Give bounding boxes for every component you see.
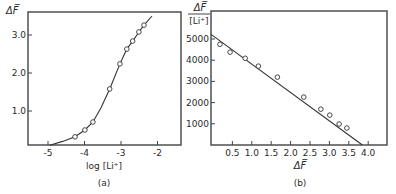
panel-b-y-axis-label-numerator: ΔF̅ — [193, 1, 209, 13]
data-point — [137, 30, 142, 35]
panel-a-y-axis-label: ΔF̅ — [5, 4, 21, 16]
y-tick-label: 2000 — [186, 98, 209, 108]
data-point — [142, 23, 147, 28]
x-tick-label: 3.5 — [342, 148, 356, 158]
data-point — [118, 62, 123, 67]
data-point — [256, 64, 261, 69]
panel-a-frame — [28, 12, 181, 145]
y-tick-label: 1.0 — [12, 106, 27, 116]
panel-b-ticks: 0.51.01.52.02.53.03.54.01000200030004000… — [186, 34, 376, 158]
data-point — [91, 120, 96, 125]
x-tick-label: 1.5 — [264, 148, 278, 158]
data-point — [243, 56, 248, 61]
x-tick-label: -2 — [153, 148, 162, 158]
data-point — [337, 122, 342, 127]
data-point — [228, 50, 233, 55]
data-point — [275, 75, 280, 80]
x-tick-label: 2.5 — [303, 148, 317, 158]
panel-b-y-axis-label-denominator: [Li⁺] — [189, 16, 208, 26]
data-point — [83, 128, 88, 133]
panel-b-frame — [211, 11, 387, 145]
panel-b-data-points — [218, 42, 349, 130]
panel-a: -5-4-3-21.02.03.0 ΔF̅ log [Li⁺] (a) — [5, 4, 181, 188]
panel-a-fitted-curve — [50, 16, 152, 145]
data-point — [107, 87, 112, 92]
y-tick-label: 3.0 — [12, 30, 27, 40]
data-point — [73, 135, 78, 140]
y-tick-label: 3000 — [186, 76, 209, 86]
x-tick-label: -5 — [44, 148, 53, 158]
x-tick-label: 1.0 — [245, 148, 260, 158]
data-point — [125, 47, 130, 52]
panel-b: 0.51.01.52.02.53.03.54.01000200030004000… — [186, 1, 387, 188]
data-point — [218, 42, 223, 47]
data-point — [301, 95, 306, 100]
figure: -5-4-3-21.02.03.0 ΔF̅ log [Li⁺] (a) 0.51… — [0, 0, 396, 194]
y-tick-label: 4000 — [186, 55, 209, 65]
y-tick-label: 5000 — [186, 34, 209, 44]
data-point — [345, 126, 350, 131]
panel-b-fit-line — [211, 34, 362, 145]
y-tick-label: 2.0 — [12, 68, 27, 78]
data-point — [327, 113, 332, 118]
x-tick-label: -4 — [80, 148, 89, 158]
x-tick-label: -3 — [117, 148, 126, 158]
panel-b-caption: (b) — [294, 178, 307, 188]
panel-a-ticks: -5-4-3-21.02.03.0 — [12, 30, 162, 158]
x-tick-label: 3.0 — [322, 148, 337, 158]
panel-a-caption: (a) — [98, 178, 111, 188]
panel-a-data-points — [73, 23, 147, 139]
data-point — [130, 39, 135, 44]
x-tick-label: 2.0 — [283, 148, 298, 158]
panel-a-x-axis-label: log [Li⁺] — [86, 161, 122, 171]
panel-b-x-axis-label: ΔF̅ — [293, 159, 309, 171]
y-tick-label: 1000 — [186, 119, 209, 129]
x-tick-label: 4.0 — [361, 148, 376, 158]
data-point — [319, 107, 324, 112]
x-tick-label: 0.5 — [225, 148, 239, 158]
